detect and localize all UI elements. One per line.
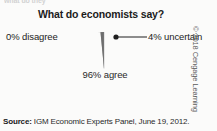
label-disagree: 0% disagree	[6, 31, 58, 42]
label-agree: 96% agree	[74, 69, 136, 80]
pie-slice-uncertain	[101, 32, 105, 69]
copyright-notice: © 2018 Cengage Learning	[191, 26, 200, 112]
source-citation: IGM Economic Experts Panel, June 19, 201…	[32, 117, 190, 126]
chart-title: What do economists say?	[0, 8, 202, 20]
pie-chart-figure: what do they What do economists say? 0%	[0, 0, 217, 131]
leader-dot-marker	[113, 34, 118, 39]
source-line: Source: IGM Economic Experts Panel, June…	[3, 117, 189, 126]
leader-line-svg	[113, 33, 148, 41]
uncertain-leader-line	[113, 33, 148, 41]
source-label: Source:	[3, 117, 32, 126]
cut-off-heading-text: what do they	[4, 0, 64, 5]
